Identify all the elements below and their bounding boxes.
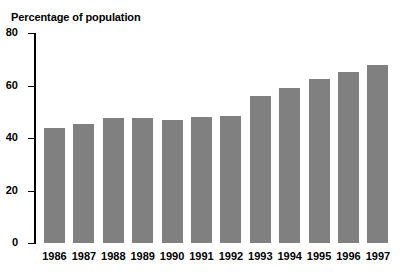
y-tick-label: 0 [0, 236, 18, 249]
bar-series [36, 0, 396, 279]
y-tick-mark [28, 33, 34, 34]
bar [309, 79, 330, 243]
y-tick-label: 80 [0, 26, 18, 39]
y-tick-label: 40 [0, 131, 18, 144]
plot-area: 020406080 198619871988198919901991199219… [0, 0, 401, 279]
bar [338, 72, 359, 243]
x-axis-labels: 1986198719881989199019911992199319941995… [36, 249, 396, 265]
bar [191, 117, 212, 243]
y-tick-mark [28, 138, 34, 139]
bar [162, 120, 183, 243]
bar [250, 96, 271, 243]
bar [103, 118, 124, 243]
bar [220, 116, 241, 243]
x-tick-label: 1997 [361, 249, 395, 263]
bar [279, 88, 300, 243]
y-tick-mark [28, 86, 34, 87]
bar [44, 128, 65, 244]
bar [73, 124, 94, 243]
y-tick-label: 60 [0, 79, 18, 92]
chart-container: Percentage of population 020406080 19861… [0, 0, 401, 279]
bar [132, 118, 153, 243]
y-tick-mark [28, 243, 34, 244]
y-tick-label: 20 [0, 184, 18, 197]
bar [367, 65, 388, 244]
y-tick-mark [28, 191, 34, 192]
